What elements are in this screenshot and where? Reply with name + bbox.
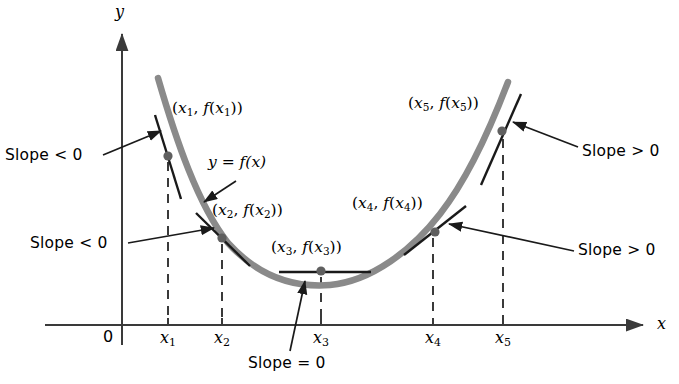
- point-label-x5: (x5, f(x5)): [408, 96, 479, 112]
- leader-slope-pos-2: [513, 122, 578, 147]
- point-x1: [163, 151, 172, 160]
- tick-label-x3: x3: [313, 330, 329, 346]
- tick-label-x2: x2: [214, 330, 230, 346]
- leader-slope-zero: [290, 281, 305, 351]
- tick-label-x4: x4: [425, 330, 441, 346]
- point-x4: [430, 227, 439, 236]
- point-x5: [497, 126, 506, 135]
- leader-slope-pos-1: [449, 224, 574, 251]
- axes-group: [45, 34, 643, 345]
- slope-annotation-x2: Slope < 0: [30, 236, 108, 252]
- x-axis-label: x: [657, 316, 666, 332]
- annotation-arrows: [103, 122, 578, 351]
- x-axis-ticks: [168, 318, 503, 325]
- point-label-x1: (x1, f(x1)): [172, 101, 243, 117]
- leader-slope-neg-1: [103, 131, 161, 155]
- slope-annotation-x5: Slope > 0: [582, 144, 660, 160]
- point-x2: [217, 233, 226, 242]
- function-label: y = f(x): [208, 155, 266, 171]
- slope-annotation-x4: Slope > 0: [578, 243, 656, 259]
- origin-label: 0: [103, 329, 113, 345]
- point-x3: [316, 266, 325, 275]
- tick-label-x5: x5: [495, 330, 511, 346]
- leader-slope-neg-2: [128, 228, 214, 243]
- point-label-x4: (x4, f(x4)): [352, 196, 423, 212]
- point-label-x3: (x3, f(x3)): [271, 240, 342, 256]
- leader-function-label: [204, 181, 236, 202]
- tick-label-x1: x1: [160, 330, 176, 346]
- figure-canvas: [0, 0, 679, 384]
- point-label-x2: (x2, f(x2)): [212, 203, 283, 219]
- y-axis-label: y: [115, 4, 124, 20]
- calculus-tangent-slope-figure: y x 0 x1 x2 x3 x4 x5 (x1, f(x1)) (x2, f(…: [0, 0, 679, 384]
- slope-annotation-x1: Slope < 0: [5, 148, 83, 164]
- slope-annotation-x3: Slope = 0: [248, 356, 326, 372]
